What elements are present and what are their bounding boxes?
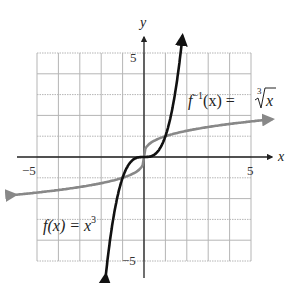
y-axis-label: y: [138, 15, 147, 30]
tick-label-x-neg: −5: [22, 163, 36, 178]
tick-label-y-pos: 5: [130, 50, 137, 65]
tick-label-y-neg: −5: [122, 253, 136, 268]
cbrt-label-sup: −1: [192, 90, 203, 101]
x-axis-label: x: [277, 149, 285, 164]
cubic-curve-label: f(x) = x3: [43, 214, 96, 235]
cubic-label-main: f(x) = x: [43, 217, 91, 235]
cubic-label-sup: 3: [91, 214, 96, 225]
tick-label-x-pos: 5: [247, 163, 254, 178]
cbrt-radicand: x: [265, 92, 273, 109]
cbrt-root-index: 3: [257, 86, 262, 96]
cbrt-label-rest: (x) =: [203, 92, 235, 110]
cbrt-curve-label: f−1(x) =: [188, 90, 235, 110]
chart-canvas: x y −5 5 5 −5 f−1(x) = 3 x f(x) = x3: [0, 0, 288, 283]
